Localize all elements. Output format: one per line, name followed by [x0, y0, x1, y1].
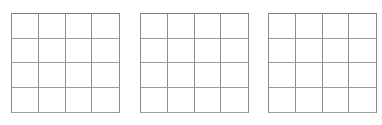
grid-cell[interactable] — [168, 39, 195, 64]
grid-cell[interactable] — [92, 14, 119, 39]
grid-cell[interactable] — [92, 39, 119, 64]
grid-cell[interactable] — [221, 88, 248, 113]
grid-cell[interactable] — [141, 88, 168, 113]
grid-cell[interactable] — [269, 39, 296, 64]
grid-cell[interactable] — [12, 63, 39, 88]
grid-cell[interactable] — [221, 39, 248, 64]
grid-cell[interactable] — [195, 39, 222, 64]
grid-1[interactable] — [11, 13, 120, 113]
grid-cell[interactable] — [349, 39, 376, 64]
grid-cell[interactable] — [12, 88, 39, 113]
grid-cell[interactable] — [221, 14, 248, 39]
grid-cell[interactable] — [92, 63, 119, 88]
grid-cell[interactable] — [269, 88, 296, 113]
grid-cell[interactable] — [12, 14, 39, 39]
grid-cell[interactable] — [323, 63, 350, 88]
grid-cell[interactable] — [39, 14, 66, 39]
grid-cell[interactable] — [39, 63, 66, 88]
grid-cell[interactable] — [269, 63, 296, 88]
grid-cell[interactable] — [349, 88, 376, 113]
grid-cell[interactable] — [269, 14, 296, 39]
grid-cell[interactable] — [296, 63, 323, 88]
grid-cell[interactable] — [296, 14, 323, 39]
grid-cell[interactable] — [168, 14, 195, 39]
grid-cell[interactable] — [168, 63, 195, 88]
grid-cell[interactable] — [141, 63, 168, 88]
grid-cell[interactable] — [349, 63, 376, 88]
grid-2[interactable] — [140, 13, 249, 113]
grid-cell[interactable] — [66, 88, 93, 113]
grid-cell[interactable] — [39, 39, 66, 64]
grid-cell[interactable] — [323, 14, 350, 39]
grid-cell[interactable] — [168, 88, 195, 113]
grid-cell[interactable] — [66, 39, 93, 64]
grid-cell[interactable] — [323, 39, 350, 64]
grid-cell[interactable] — [66, 14, 93, 39]
grid-cell[interactable] — [39, 88, 66, 113]
grid-cell[interactable] — [296, 88, 323, 113]
grid-cell[interactable] — [92, 88, 119, 113]
grid-cell[interactable] — [221, 63, 248, 88]
grid-cell[interactable] — [195, 88, 222, 113]
grid-figure — [0, 0, 382, 125]
grid-cell[interactable] — [141, 39, 168, 64]
grid-cell[interactable] — [349, 14, 376, 39]
grid-cell[interactable] — [66, 63, 93, 88]
grid-cell[interactable] — [296, 39, 323, 64]
grid-cell[interactable] — [195, 14, 222, 39]
grid-cell[interactable] — [323, 88, 350, 113]
grid-cell[interactable] — [141, 14, 168, 39]
grid-3[interactable] — [268, 13, 377, 113]
grid-cell[interactable] — [12, 39, 39, 64]
grid-cell[interactable] — [195, 63, 222, 88]
